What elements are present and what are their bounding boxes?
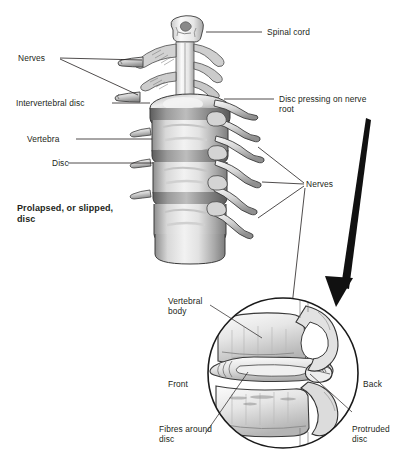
label-protruded-disc-line1: Protruded	[352, 424, 390, 435]
label-front: Front	[168, 379, 188, 390]
leader-nerves-right-c	[258, 186, 304, 218]
cervical-spine-illustration	[115, 16, 264, 264]
label-fibres-around-disc-line1: Fibres around	[159, 424, 212, 435]
label-intervertebral-disc: Intervertebral disc	[16, 98, 84, 109]
label-vertebral-body-line1: Vertebral	[168, 296, 202, 307]
leader-nerves-right-a	[258, 147, 304, 183]
label-fibres-around-disc-line2: disc	[159, 434, 174, 445]
label-back: Back	[363, 379, 382, 390]
magnification-arrow	[325, 118, 371, 307]
label-spinal-cord: Spinal cord	[267, 27, 310, 38]
label-disc-pressing-line1: Disc pressing on nerve	[279, 94, 366, 105]
caption-line2: disc	[17, 214, 35, 225]
label-vertebral-body-line2: body	[168, 306, 187, 317]
spinal-cord-structure	[135, 16, 224, 100]
leader-nerves-right-b	[262, 182, 304, 184]
prolapsed-disc-diagram	[0, 0, 411, 470]
magnified-inset	[205, 295, 363, 453]
label-nerves-right: Nerves	[306, 179, 333, 190]
label-nerves-left: Nerves	[18, 53, 45, 64]
label-protruded-disc-line2: disc	[352, 434, 367, 445]
nerve-roots-left	[115, 57, 151, 199]
label-disc: Disc	[52, 158, 69, 169]
caption-line1: Prolapsed, or slipped,	[17, 203, 113, 214]
label-disc-pressing-line2: root	[279, 104, 294, 115]
label-vertebra: Vertebra	[27, 134, 59, 145]
